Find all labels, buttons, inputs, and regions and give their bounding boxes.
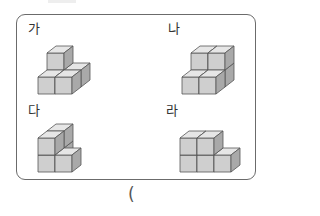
cube-face (47, 53, 64, 70)
cube-face (197, 138, 214, 155)
cube-face (180, 138, 197, 155)
cube-face (191, 53, 208, 70)
header-tab-decoration (48, 0, 76, 3)
cube-face (38, 77, 55, 94)
cube-face (180, 155, 197, 172)
cube-figure-ra[interactable] (176, 106, 266, 176)
cube-face (182, 77, 199, 94)
cube-figure-da[interactable] (34, 106, 114, 176)
cube-face (208, 53, 225, 70)
cube-figure-ga[interactable] (34, 28, 114, 98)
cube-face (214, 155, 231, 172)
cube-face (199, 77, 216, 94)
cube-figure-na[interactable] (178, 28, 258, 98)
answer-blank-paren[interactable]: ( (128, 186, 135, 203)
cube-face (55, 77, 72, 94)
cube-face (38, 155, 55, 172)
cube-face (55, 155, 72, 172)
cube-face (197, 155, 214, 172)
cube-face (38, 138, 55, 155)
